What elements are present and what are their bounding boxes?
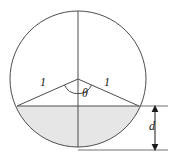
central-angle-label: θ [82, 87, 88, 99]
radius-left-label: 1 [40, 76, 46, 88]
radius-right-label: 1 [104, 76, 110, 88]
radius-line-left [17, 79, 78, 106]
figure-container: 1 1 θ d [0, 0, 172, 162]
depth-label: d [149, 120, 155, 132]
circular-segment-diagram [0, 0, 172, 162]
